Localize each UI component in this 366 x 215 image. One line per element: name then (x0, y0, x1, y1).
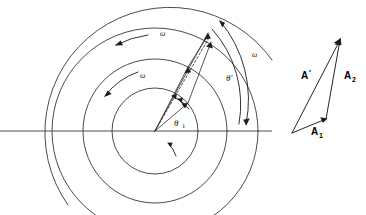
triangle-vector-a1-line (292, 119, 326, 133)
triangle-a1-letter: A (311, 126, 318, 137)
triangle-label-a1: A 1 (311, 126, 323, 139)
vector-a2-translated-arrowhead (206, 42, 213, 49)
triangle-a1-subscript: 1 (319, 132, 323, 139)
triangle-vector-a-prime-line (292, 40, 340, 133)
vector-sum-triangle-group: A ′ A 2 A 1 (292, 38, 356, 139)
triangle-a2-letter: A (344, 70, 351, 81)
triangle-vector-a2-line (326, 40, 340, 119)
theta-one-label-group: θ 1 (174, 118, 185, 129)
triangle-label-a2: A 2 (344, 70, 356, 83)
theta-one-subscript: 1 (182, 122, 185, 129)
outer-circle (52, 28, 258, 215)
triangle-label-a-prime: A ′ (301, 68, 311, 81)
radiating-vectors-group (155, 33, 213, 131)
triangle-a2-subscript: 2 (352, 76, 356, 83)
concentric-circles-group (45, 7, 272, 215)
omega-right-arrowhead-bottom (243, 118, 250, 125)
outermost-open-arc (45, 7, 272, 205)
omega-right-arc-arrow (220, 21, 249, 124)
omega-outer-arrowhead (115, 41, 123, 46)
theta-one-symbol: θ (174, 118, 179, 128)
omega-right-label: ω (252, 50, 257, 59)
vector-parallelogram-side (188, 34, 209, 67)
omega-middle-label: ω (140, 71, 145, 80)
theta-prime-label: θ′ (226, 73, 233, 83)
vector-a2-translated-line (188, 42, 211, 103)
physics-diagram-canvas: ω ω ω θ′ θ 1 (0, 0, 366, 215)
omega-outer-label: ω (160, 29, 165, 38)
omega-middle-arc-arrow (105, 72, 138, 96)
figure-root: ω ω ω θ′ θ 1 (0, 0, 366, 215)
triangle-a-prime-mark: ′ (309, 68, 311, 77)
vector-dashed-construction (155, 36, 210, 131)
triangle-a-prime-letter: A (301, 70, 308, 81)
rotation-arrows-group: ω ω ω θ′ (104, 20, 257, 125)
omega-middle-arrowhead (104, 90, 111, 97)
